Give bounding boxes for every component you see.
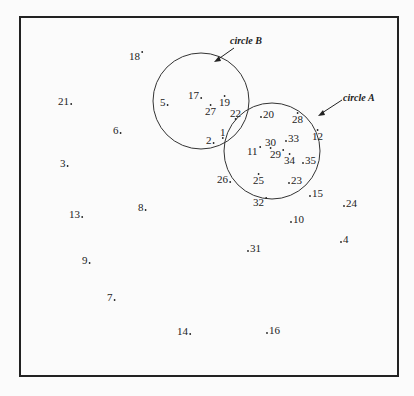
point-dot-4 (340, 241, 342, 243)
point-dot-29 (282, 149, 284, 151)
point-label-29: 29 (270, 148, 282, 160)
point-label-33: 33 (288, 132, 300, 144)
point-dot-33 (285, 140, 287, 142)
point-dot-26 (229, 181, 231, 183)
point-diagram: circle B circle A 1821631389714517192722… (0, 0, 414, 396)
point-dot-17 (200, 97, 202, 99)
point-label-18: 18 (129, 50, 141, 62)
point-dot-13 (81, 216, 83, 218)
point-label-10: 10 (293, 213, 305, 225)
point-label-13: 13 (69, 208, 81, 220)
point-dot-35 (302, 162, 304, 164)
point-label-17: 17 (188, 89, 200, 101)
point-dot-11 (259, 146, 261, 148)
point-label-27: 27 (205, 105, 217, 117)
point-dot-6 (120, 132, 122, 134)
circle-a-label: circle A (343, 92, 375, 103)
point-dot-5 (167, 104, 169, 106)
point-dot-28 (297, 112, 299, 114)
point-label-35: 35 (305, 154, 317, 166)
point-label-25: 25 (253, 174, 265, 186)
point-dot-12 (317, 129, 319, 131)
point-label-2: 2 (206, 134, 212, 146)
point-dot-19 (224, 95, 226, 97)
point-dot-23 (288, 182, 290, 184)
point-dot-1 (222, 137, 224, 139)
point-label-19: 19 (219, 96, 231, 108)
point-label-16: 16 (269, 324, 281, 336)
point-dot-3 (67, 165, 69, 167)
point-label-11: 11 (247, 145, 258, 157)
point-dot-9 (89, 262, 91, 264)
point-dot-2 (213, 142, 215, 144)
point-label-4: 4 (343, 233, 349, 245)
point-dot-15 (309, 195, 311, 197)
point-label-3: 3 (60, 157, 66, 169)
point-label-8: 8 (138, 201, 144, 213)
point-label-9: 9 (82, 254, 88, 266)
point-dot-8 (145, 209, 147, 211)
point-dot-20 (260, 116, 262, 118)
point-label-31: 31 (250, 242, 261, 254)
point-dot-22 (235, 118, 237, 120)
point-dot-25 (258, 173, 260, 175)
point-dot-34 (289, 153, 291, 155)
point-label-28: 28 (292, 113, 304, 125)
circle-b-label: circle B (230, 35, 262, 46)
point-dot-27 (210, 104, 212, 106)
point-dot-24 (343, 205, 345, 207)
point-dot-31 (247, 250, 249, 252)
point-dot-10 (290, 221, 292, 223)
point-label-20: 20 (263, 108, 275, 120)
point-label-32: 32 (253, 196, 264, 208)
circle-a-arrowhead (318, 110, 325, 116)
point-dot-14 (189, 333, 191, 335)
point-label-12: 12 (312, 130, 323, 142)
point-label-22: 22 (230, 107, 241, 119)
point-label-21: 21 (58, 95, 69, 107)
point-label-24: 24 (346, 197, 358, 209)
point-label-30: 30 (265, 136, 277, 148)
point-label-15: 15 (312, 187, 324, 199)
point-dot-18 (141, 51, 143, 53)
point-label-1: 1 (220, 126, 226, 138)
point-dot-7 (114, 299, 116, 301)
point-label-6: 6 (113, 124, 119, 136)
circle-b (153, 53, 249, 149)
point-label-23: 23 (291, 174, 303, 186)
point-label-14: 14 (177, 325, 189, 337)
point-label-26: 26 (217, 173, 229, 185)
point-label-7: 7 (107, 291, 113, 303)
point-label-5: 5 (160, 96, 166, 108)
point-dot-21 (70, 103, 72, 105)
point-dot-16 (266, 332, 268, 334)
point-label-34: 34 (284, 154, 296, 166)
circle-a-arrow (322, 100, 342, 113)
point-dot-32 (265, 197, 267, 199)
